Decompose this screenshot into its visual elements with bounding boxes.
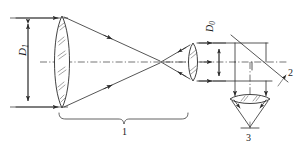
label-component-1: 1 bbox=[122, 127, 127, 137]
label-component-2: 2 bbox=[288, 68, 293, 78]
collimating-lens bbox=[189, 43, 198, 81]
label-d1: D1 bbox=[17, 44, 30, 56]
assembly-brace bbox=[59, 113, 188, 124]
beam-splitter bbox=[231, 35, 288, 82]
detector bbox=[241, 122, 259, 128]
objective-lens bbox=[55, 16, 70, 108]
label-component-3: 3 bbox=[246, 133, 251, 143]
label-d0: D0 bbox=[205, 21, 217, 32]
input-rays bbox=[16, 18, 58, 107]
optical-diagram-figure: D1 D0 1 2 3 bbox=[0, 0, 304, 149]
diagram-canvas bbox=[0, 0, 304, 149]
